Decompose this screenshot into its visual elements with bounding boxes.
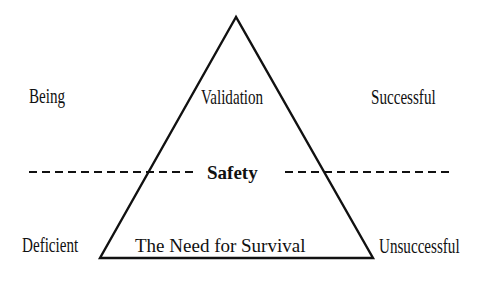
- label-being: Being: [29, 86, 65, 107]
- pyramid-diagram: Being Validation Successful Safety Defic…: [0, 0, 479, 281]
- label-need-for-survival: The Need for Survival: [135, 236, 305, 255]
- label-successful: Successful: [371, 87, 436, 108]
- label-validation: Validation: [201, 87, 263, 108]
- label-unsuccessful: Unsuccessful: [379, 236, 460, 257]
- pyramid-triangle: [100, 17, 373, 258]
- label-deficient: Deficient: [22, 235, 78, 256]
- label-safety: Safety: [207, 163, 258, 182]
